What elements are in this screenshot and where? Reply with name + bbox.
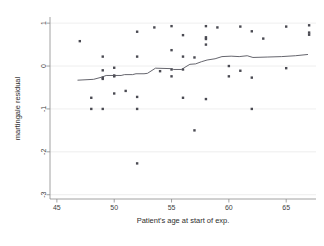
data-point [308, 34, 310, 36]
data-point-markers [79, 24, 311, 165]
data-point [102, 55, 104, 57]
data-point [113, 67, 115, 69]
x-tick-label: 50 [110, 204, 118, 211]
data-point [102, 108, 104, 110]
data-point [308, 24, 310, 26]
data-point [153, 26, 155, 28]
data-point [205, 25, 207, 27]
data-point [102, 69, 104, 71]
data-point [193, 56, 195, 58]
data-point [251, 108, 253, 110]
data-point [124, 90, 126, 92]
data-point [170, 49, 172, 51]
y-tick-label: 0 [41, 64, 48, 68]
y-tick-label: -2 [41, 149, 48, 155]
data-point [228, 65, 230, 67]
data-point [285, 25, 287, 27]
y-tick-label: 1 [41, 21, 48, 25]
data-point [193, 129, 195, 131]
data-point [102, 78, 104, 80]
x-axis-ticks: 4550556065 [53, 199, 290, 211]
data-point [285, 67, 287, 69]
data-point [79, 40, 81, 42]
data-point [308, 31, 310, 33]
data-point [136, 96, 138, 98]
y-axis-ticks: 10-1-2-3 [41, 21, 51, 198]
data-point [170, 25, 172, 27]
data-point [205, 38, 207, 40]
data-point [205, 43, 207, 45]
smoother-line [78, 54, 308, 80]
data-point [239, 25, 241, 27]
data-point [251, 30, 253, 32]
data-point [182, 97, 184, 99]
data-point [159, 70, 161, 72]
data-point [136, 108, 138, 110]
data-point [216, 26, 218, 28]
data-point [113, 92, 115, 94]
data-point [182, 34, 184, 36]
data-point [228, 75, 230, 77]
x-tick-label: 45 [53, 204, 61, 211]
data-point [251, 76, 253, 78]
data-point [136, 31, 138, 33]
x-tick-label: 65 [282, 204, 290, 211]
x-axis-title: Patient's age at start of exp. [137, 216, 230, 225]
data-point [182, 55, 184, 57]
axes [50, 17, 316, 199]
data-point [90, 108, 92, 110]
data-point [205, 98, 207, 100]
y-axis-title: martingale residual [13, 76, 22, 140]
data-point [262, 37, 264, 39]
data-point [170, 75, 172, 77]
y-tick-label: -3 [41, 191, 48, 197]
scatter-plot: 10-1-2-3 4550556065 Patient's age at sta… [0, 0, 324, 246]
data-point [136, 162, 138, 164]
data-point [136, 55, 138, 57]
data-point [90, 97, 92, 99]
data-point [239, 70, 241, 72]
y-tick-label: -1 [41, 106, 48, 112]
gridlines [50, 23, 316, 195]
x-tick-label: 55 [168, 204, 176, 211]
x-tick-label: 60 [225, 204, 233, 211]
figure-container: 10-1-2-3 4550556065 Patient's age at sta… [0, 0, 324, 246]
